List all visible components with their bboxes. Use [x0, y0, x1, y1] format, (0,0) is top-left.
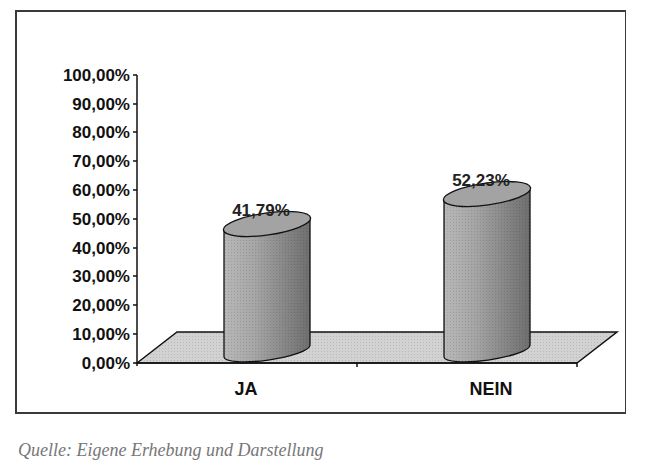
y-tick-label: 60,00%: [72, 182, 130, 199]
x-category-label-nein: NEIN: [431, 380, 551, 398]
y-tick-label: 50,00%: [72, 211, 130, 228]
y-tick-label: 20,00%: [72, 297, 130, 314]
bar-ja: [222, 207, 312, 362]
y-tick-label: 10,00%: [72, 326, 130, 343]
bar-nein: [442, 177, 532, 362]
y-tick-label: 70,00%: [72, 153, 130, 170]
y-tick-label: 30,00%: [72, 268, 130, 285]
x-category-label-ja: JA: [186, 380, 306, 398]
y-tick-label: 80,00%: [72, 124, 130, 141]
y-tick-label: 90,00%: [72, 96, 130, 113]
data-label-nein: 52,23%: [431, 172, 531, 189]
y-tick-label: 40,00%: [72, 240, 130, 257]
figure-caption: Quelle: Eigene Erhebung und Darstellung: [18, 440, 324, 461]
y-tick-label: 100,00%: [63, 67, 130, 84]
data-label-ja: 41,79%: [211, 202, 311, 219]
y-tick-label: 0,00%: [82, 355, 130, 372]
